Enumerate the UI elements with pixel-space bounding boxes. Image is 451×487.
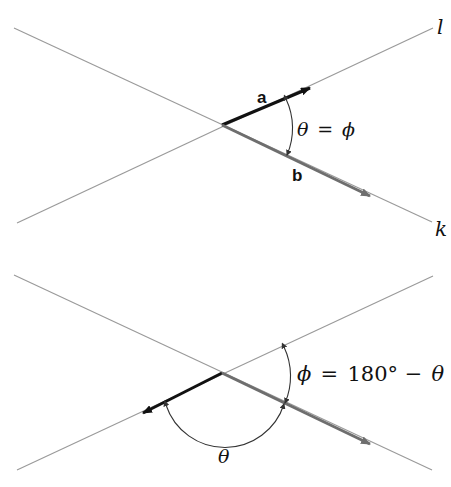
angle-arc-theta-phi	[286, 99, 293, 155]
label-theta-eq-phi: θ = ϕ	[297, 118, 355, 140]
vector-angle-diagram: l k a b θ = ϕ ϕ = 180° − θ θ	[0, 0, 451, 487]
vector-minus-a	[143, 373, 222, 413]
label-phi-equation: ϕ = 180° − θ	[297, 362, 445, 386]
label-k: k	[435, 217, 447, 241]
label-l: l	[437, 15, 443, 39]
angle-arc-theta	[166, 404, 284, 447]
label-b: b	[292, 166, 302, 185]
top-diagram	[14, 28, 433, 223]
angle-arc-phi	[284, 347, 291, 403]
label-a: a	[257, 88, 267, 107]
label-theta-bottom: θ	[218, 445, 230, 467]
